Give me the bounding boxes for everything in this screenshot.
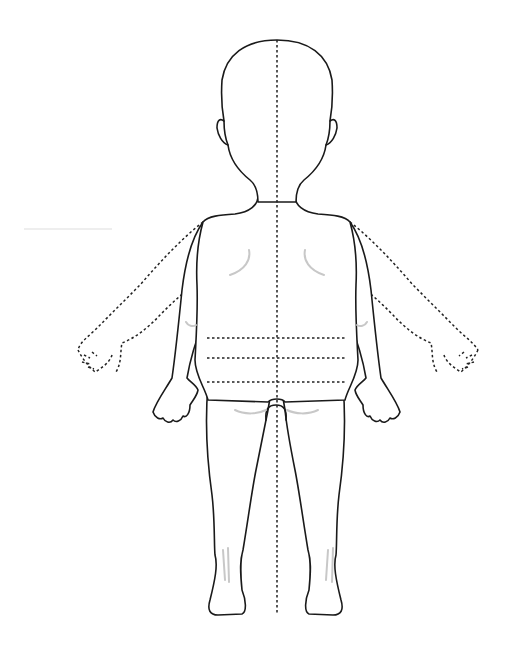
buttocks-cleft — [266, 405, 286, 420]
right-leg — [283, 385, 344, 615]
left-leg — [207, 385, 270, 615]
body-diagram-back-view — [0, 0, 508, 653]
